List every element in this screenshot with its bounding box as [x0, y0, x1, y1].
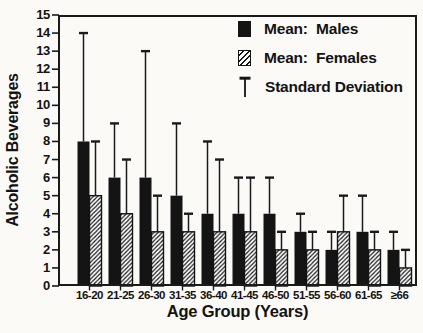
x-axis-title: Age Group (Years): [58, 302, 417, 322]
bar-females-21-25: [121, 214, 133, 286]
bar-males-41-45: [233, 214, 245, 286]
bar-females-56-60: [338, 232, 350, 286]
y-tick-label-12: 12: [18, 61, 50, 77]
legend-item-standard-deviation: Standard Deviation: [238, 78, 403, 96]
males-swatch-icon: [238, 21, 251, 37]
legend-label-standard-deviation: Standard Deviation: [265, 78, 403, 96]
y-tick-label-4: 4: [18, 206, 50, 222]
y-tick-label-1: 1: [18, 260, 50, 276]
bar-males-21-25: [109, 178, 121, 286]
legend-label-females: Mean: Females: [264, 49, 377, 67]
bar-females-≥66: [400, 268, 412, 286]
x-tick-label-≥66: ≥66: [382, 288, 418, 302]
bar-males-31-35: [171, 196, 183, 286]
females-swatch-icon: [238, 50, 251, 66]
y-tick-label-2: 2: [18, 242, 50, 258]
error-bar-icon: [238, 76, 252, 97]
y-tick-label-13: 13: [18, 43, 50, 59]
bar-females-61-65: [369, 250, 381, 286]
bar-males-51-55: [295, 232, 307, 286]
y-tick-label-5: 5: [18, 188, 50, 204]
y-tick-label-3: 3: [18, 224, 50, 240]
y-tick-label-9: 9: [18, 115, 50, 131]
legend-label-males: Mean: Males: [264, 20, 358, 38]
y-tick-label-11: 11: [18, 79, 50, 95]
bar-males-61-65: [357, 232, 369, 286]
y-tick-label-0: 0: [18, 278, 50, 294]
bar-males-16-20: [78, 141, 90, 286]
bar-females-41-45: [245, 232, 257, 286]
bar-females-16-20: [90, 196, 102, 286]
bar-females-51-55: [307, 250, 319, 286]
bar-males-36-40: [202, 214, 214, 286]
y-tick-label-6: 6: [18, 170, 50, 186]
legend: Mean: Males Mean: Females Standard Devia…: [238, 20, 403, 96]
y-tick-label-8: 8: [18, 133, 50, 149]
y-tick-label-7: 7: [18, 152, 50, 168]
bar-females-31-35: [183, 232, 195, 286]
bar-chart-figure: Alcoholic Beverages Age Group (Years) 01…: [0, 0, 423, 333]
legend-item-males: Mean: Males: [238, 20, 403, 38]
bar-females-36-40: [214, 232, 226, 286]
bar-males-56-60: [326, 250, 338, 286]
y-tick-label-10: 10: [18, 97, 50, 113]
bar-females-26-30: [152, 232, 164, 286]
y-tick-label-14: 14: [18, 25, 50, 41]
bar-males-46-50: [264, 214, 276, 286]
bar-females-46-50: [276, 250, 288, 286]
bar-males-26-30: [140, 178, 152, 286]
y-tick-label-15: 15: [18, 7, 50, 23]
legend-item-females: Mean: Females: [238, 49, 403, 67]
bar-males-≥66: [388, 250, 400, 286]
